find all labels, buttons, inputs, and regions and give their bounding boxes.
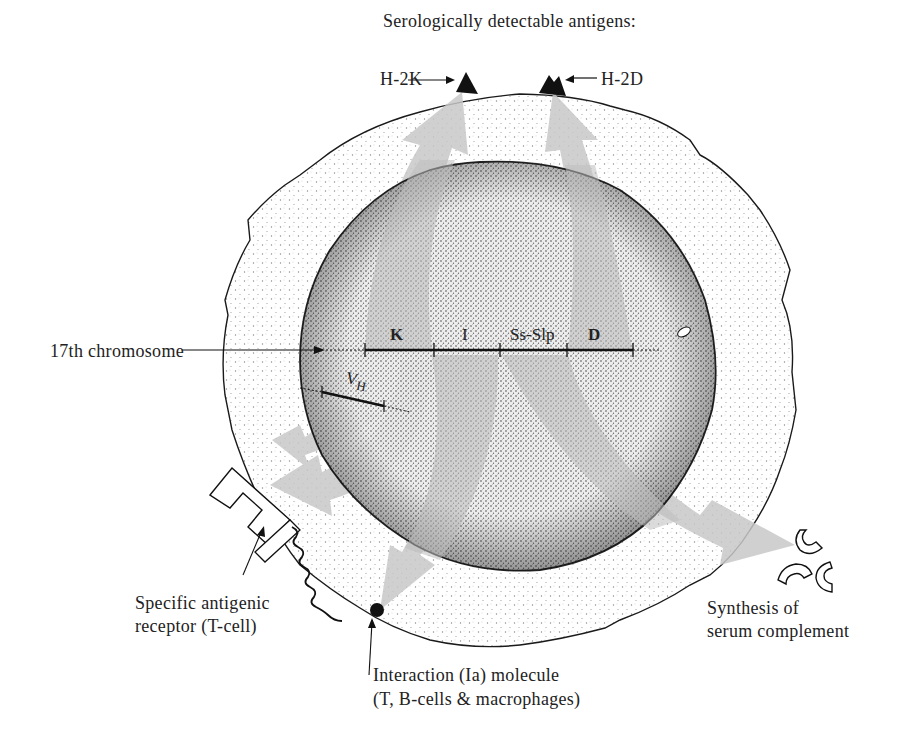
receptor-label-line2: receptor (T-cell) <box>135 615 257 637</box>
complement-label-line2: serum complement <box>707 620 849 642</box>
region-i: I <box>462 325 468 345</box>
h2k-label: H-2K <box>380 68 422 90</box>
region-ss-slp: Ss-Slp <box>510 325 554 345</box>
ia-molecule-icon <box>370 603 384 617</box>
chromosome-label: 17th chromosome <box>50 340 184 362</box>
h2d-antigen-icon <box>539 75 566 96</box>
region-k: K <box>390 325 403 345</box>
receptor-label-line1: Specific antigenic <box>135 592 270 614</box>
h2-complex-diagram: Serologically detectable antigens: H-2K … <box>0 0 924 737</box>
diagram-title: Serologically detectable antigens: <box>383 10 636 32</box>
interaction-label-line2: (T, B-cells & macrophages) <box>373 688 580 710</box>
complement-label-line1: Synthesis of <box>707 597 799 619</box>
region-d: D <box>588 325 600 345</box>
h2k-antigen-icon <box>456 72 478 94</box>
interaction-label-line1: Interaction (Ia) molecule <box>373 664 559 686</box>
complement-fragments-icon <box>778 530 832 592</box>
h2d-label: H-2D <box>601 68 643 90</box>
